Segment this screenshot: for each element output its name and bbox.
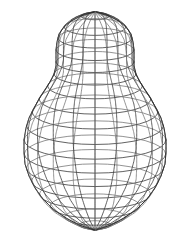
- wireframe-figure: [0, 0, 183, 240]
- wireframe-figure-page: { "figure": { "title": "", "caption": ""…: [0, 0, 183, 240]
